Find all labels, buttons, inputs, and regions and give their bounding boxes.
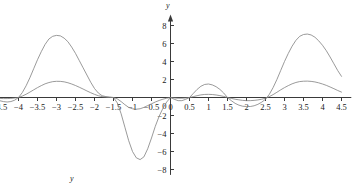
- y-axis-arrowhead: [168, 15, 173, 22]
- x-tick-label: −1: [128, 102, 137, 112]
- x-tick-label: −3: [52, 102, 61, 112]
- y-axis-label: y: [166, 2, 170, 10]
- x-tick-label: −2.5: [68, 102, 83, 112]
- x-tick-label: −2: [90, 102, 99, 112]
- y-tick-label: −4: [157, 129, 167, 139]
- y-tick-label: 6: [162, 39, 166, 49]
- x-tick-label: 3: [282, 102, 286, 112]
- bottom-axis-label: y: [70, 175, 74, 183]
- y-tick-label: −6: [157, 147, 166, 157]
- y-tick-label: 8: [162, 21, 166, 31]
- y-tick-label: −8: [157, 165, 166, 175]
- y-tick-label: 4: [162, 57, 167, 67]
- x-tick-label: 3.5: [298, 102, 309, 112]
- x-tick-label: −3.5: [30, 102, 45, 112]
- x-tick-label: −4: [14, 102, 24, 112]
- chart-figure: −4.5−4−3.5−3−2.5−2−1.5−1−0.500.511.522.5…: [0, 0, 356, 195]
- plot-canvas: −4.5−4−3.5−3−2.5−2−1.5−1−0.500.511.522.5…: [0, 0, 356, 195]
- x-tick-label: 1.5: [222, 102, 233, 112]
- x-tick-label: 0.5: [184, 102, 195, 112]
- x-tick-label: 0: [168, 102, 172, 112]
- y-tick-label: 2: [162, 75, 166, 85]
- x-axis-tick-labels: −4.5−4−3.5−3−2.5−2−1.5−1−0.500.511.522.5…: [0, 102, 347, 112]
- y-tick-label: −2: [157, 111, 166, 121]
- x-tick-label: 1: [206, 102, 210, 112]
- x-tick-label: 2.5: [260, 102, 271, 112]
- x-tick-label: 4: [320, 102, 325, 112]
- axes-group: [0, 15, 351, 175]
- x-tick-label: −4.5: [0, 102, 7, 112]
- x-tick-label: 4.5: [336, 102, 347, 112]
